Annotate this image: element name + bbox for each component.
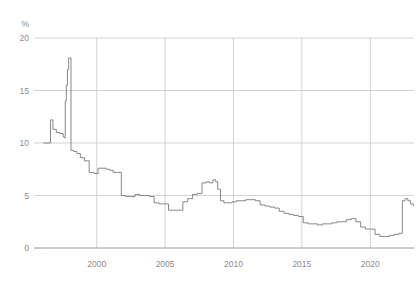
y-tick-labels: 05101520 <box>20 33 30 253</box>
chart-container: 05101520 20002005201020152020 % <box>0 0 419 284</box>
x-tick-label: 2005 <box>156 259 175 269</box>
x-tick-label: 2020 <box>361 259 380 269</box>
x-tick-label: 2010 <box>224 259 243 269</box>
x-tick-label: 2015 <box>292 259 311 269</box>
y-axis-unit-label: % <box>21 19 29 29</box>
y-tick-label: 10 <box>20 138 30 148</box>
data-line-group <box>43 58 413 237</box>
x-tick-labels: 20002005201020152020 <box>87 259 380 269</box>
y-axis-unit-label: % <box>21 19 29 29</box>
y-tick-label: 15 <box>20 86 30 96</box>
x-tick-label: 2000 <box>87 259 106 269</box>
line-chart: 05101520 20002005201020152020 % <box>0 0 419 284</box>
y-tick-label: 20 <box>20 33 30 43</box>
y-tick-label: 5 <box>24 191 29 201</box>
grid-lines <box>42 38 414 248</box>
y-tick-label: 0 <box>24 243 29 253</box>
data-line <box>43 58 413 237</box>
